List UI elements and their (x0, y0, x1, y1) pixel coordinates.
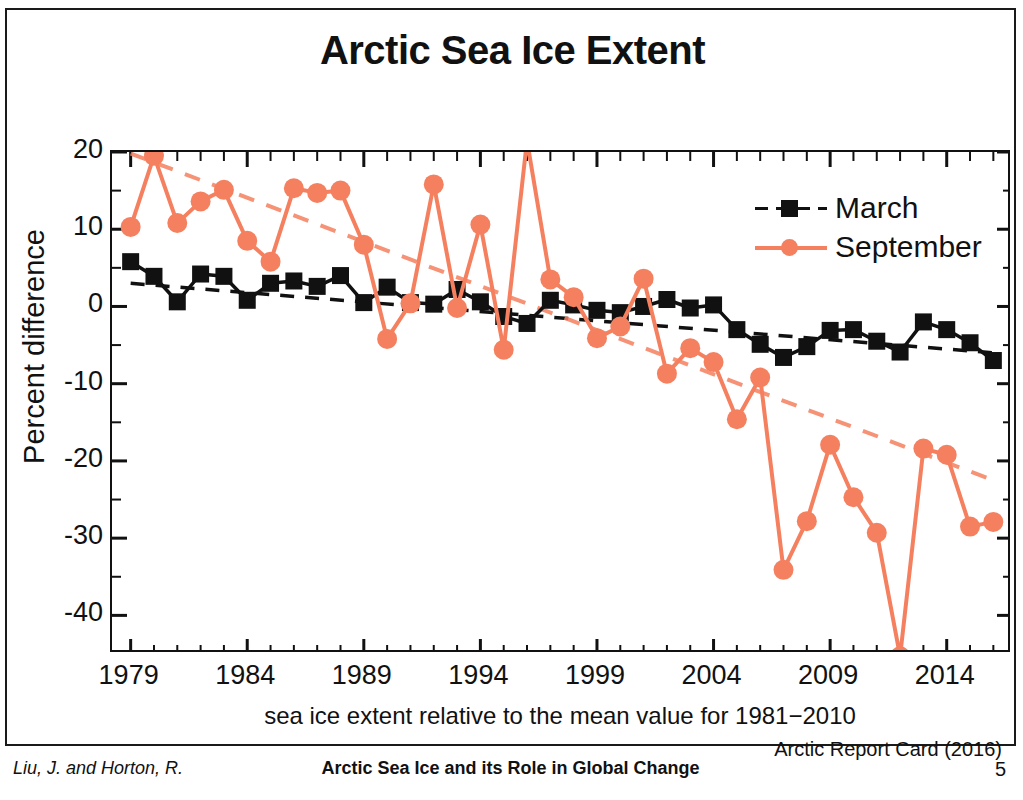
slide-frame: Arctic Sea Ice Extent Percent difference… (5, 8, 1016, 746)
data-point (774, 560, 794, 580)
data-point (354, 235, 374, 255)
x-axis-tick-label: 2009 (768, 660, 888, 691)
data-point (775, 349, 792, 366)
chart-legend: March September (755, 188, 1015, 266)
data-point (167, 213, 187, 233)
slide: Arctic Sea Ice Extent Percent difference… (0, 0, 1023, 800)
data-point (239, 292, 256, 309)
y-axis-tick-label: -10 (41, 368, 103, 395)
data-point (682, 300, 699, 317)
legend-entry-march: March (755, 188, 1015, 227)
data-point (938, 321, 955, 338)
data-point (868, 333, 885, 350)
chart-figure: Percent difference 20100-10-20-30-40 197… (7, 10, 1018, 748)
data-point (379, 279, 396, 296)
data-point (728, 321, 745, 338)
y-axis-tick-label: -20 (41, 445, 103, 472)
footer-page-number: 5 (995, 758, 1006, 781)
data-point (820, 435, 840, 455)
x-axis-tick-label: 2014 (885, 660, 1005, 691)
legend-square-marker-icon (781, 200, 798, 217)
data-point (145, 268, 162, 285)
data-point (261, 252, 281, 272)
data-point (797, 511, 817, 531)
data-point (262, 275, 279, 292)
data-point (191, 191, 211, 211)
data-point (519, 315, 536, 332)
x-axis-tick-label: 1984 (185, 660, 305, 691)
data-point (634, 269, 654, 289)
y-axis-tick-label: -40 (41, 599, 103, 626)
data-point (309, 278, 326, 295)
legend-symbol-march (755, 198, 827, 218)
data-point (658, 291, 675, 308)
data-point (843, 487, 863, 507)
data-point (447, 298, 467, 318)
data-point (215, 268, 232, 285)
data-point (890, 646, 910, 652)
x-axis-tick-label: 1994 (418, 660, 538, 691)
data-point (332, 267, 349, 284)
data-point (892, 344, 909, 361)
data-point (983, 512, 1003, 532)
x-axis-tick-label: 1989 (302, 660, 422, 691)
data-point (330, 181, 350, 201)
y-axis-tick-label: -30 (41, 522, 103, 549)
y-axis-tick-label: 10 (41, 213, 103, 240)
x-axis-caption: sea ice extent relative to the mean valu… (110, 702, 1010, 730)
data-point (610, 317, 630, 337)
data-point (845, 321, 862, 338)
data-point (704, 352, 724, 372)
x-axis-tick-label: 1979 (69, 660, 189, 691)
data-point (470, 215, 490, 235)
data-point (798, 338, 815, 355)
data-point (540, 269, 560, 289)
data-point (285, 272, 302, 289)
data-point (588, 302, 605, 319)
data-point (985, 352, 1002, 369)
legend-label-march: March (827, 191, 918, 225)
data-point (564, 287, 584, 307)
data-point (657, 364, 677, 384)
legend-label-september: September (827, 230, 982, 264)
data-point (822, 322, 839, 339)
data-point (913, 439, 933, 459)
data-point (237, 231, 257, 251)
data-point (472, 293, 489, 310)
legend-entry-september: September (755, 227, 1015, 266)
data-point (169, 293, 186, 310)
data-point (424, 174, 444, 194)
y-axis-tick-label: 20 (41, 136, 103, 163)
data-point (587, 328, 607, 348)
data-point (962, 334, 979, 351)
y-axis-tick-labels: 20100-10-20-30-40 (25, 10, 103, 748)
legend-symbol-september (755, 237, 827, 257)
data-point (705, 296, 722, 313)
data-point (400, 293, 420, 313)
footer-talk-title: Arctic Sea Ice and its Role in Global Ch… (5, 758, 1016, 779)
data-point (355, 294, 372, 311)
x-axis-tick-label: 1999 (535, 660, 655, 691)
data-point (960, 517, 980, 537)
data-point (214, 180, 234, 200)
legend-circle-marker-icon (781, 239, 798, 256)
data-point (307, 183, 327, 203)
data-point (750, 368, 770, 388)
data-point (937, 445, 957, 465)
data-point (284, 178, 304, 198)
data-point (867, 523, 887, 543)
data-point (377, 329, 397, 349)
data-point (494, 340, 514, 360)
data-point (192, 266, 209, 283)
data-point (542, 292, 559, 309)
data-point (425, 296, 442, 313)
x-axis-tick-label: 2004 (652, 660, 772, 691)
data-point (915, 313, 932, 330)
data-point (727, 409, 747, 429)
slide-footer: Liu, J. and Horton, R. Arctic Sea Ice an… (5, 748, 1016, 796)
data-point (752, 336, 769, 353)
data-point (680, 338, 700, 358)
y-axis-tick-label: 0 (41, 290, 103, 317)
data-point (122, 253, 139, 270)
data-point (121, 217, 141, 237)
